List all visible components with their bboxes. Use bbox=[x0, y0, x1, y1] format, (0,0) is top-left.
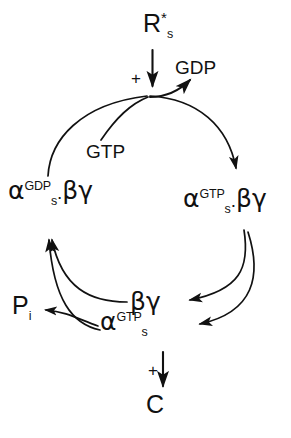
left-arc-up bbox=[48, 96, 147, 176]
node-catalyst-c: C bbox=[146, 392, 164, 417]
gs-cycle-figure: R*s + GDP GTP αGDPs.βγ αGTPs.βγ βγ αGTPs… bbox=[0, 0, 291, 438]
node-alpha-gdp-betagamma: αGDPs.βγ bbox=[8, 178, 93, 208]
alpha-gtp-bg-superscript: GTP bbox=[199, 187, 224, 201]
plus-operator-bottom: + bbox=[148, 362, 158, 379]
alpha-gtp-free-base: α bbox=[100, 307, 116, 336]
receptor-superscript-star: * bbox=[161, 9, 167, 26]
cycle-arrows-svg bbox=[0, 0, 291, 438]
receptor-base: R bbox=[143, 9, 161, 37]
alpha-gtp-bg-base: α bbox=[183, 184, 199, 213]
gdp-release-arrow bbox=[150, 80, 190, 97]
top-to-right-arc bbox=[150, 96, 236, 168]
alpha-gtp-free-subscript: s bbox=[142, 325, 148, 339]
plus-operator-top: + bbox=[131, 70, 141, 87]
beta-gamma-recycle-arrow bbox=[52, 240, 127, 302]
alpha-gtp-free-superscript: GTP bbox=[116, 310, 141, 324]
node-receptor-rs: R*s bbox=[143, 10, 173, 41]
alpha-gdp-partner-betagamma: βγ bbox=[62, 176, 93, 205]
node-gdp-release: GDP bbox=[175, 58, 216, 77]
node-alpha-gtp-free: αGTPs bbox=[100, 309, 148, 339]
gtp-entry-arrow bbox=[101, 97, 148, 140]
node-phosphate-pi: Pi bbox=[12, 293, 31, 323]
receptor-subscript-s: s bbox=[167, 27, 173, 41]
node-gtp-input: GTP bbox=[86, 142, 125, 161]
phosphate-base: P bbox=[12, 291, 29, 319]
alpha-gdp-superscript: GDP bbox=[24, 179, 51, 193]
phosphate-subscript: i bbox=[29, 309, 32, 323]
alpha-gtp-bg-partner-betagamma: βγ bbox=[236, 184, 267, 213]
alpha-gdp-base: α bbox=[8, 176, 24, 205]
node-alpha-gtp-betagamma: αGTPs.βγ bbox=[183, 186, 267, 216]
right-arc-to-beta-gamma bbox=[190, 230, 246, 300]
